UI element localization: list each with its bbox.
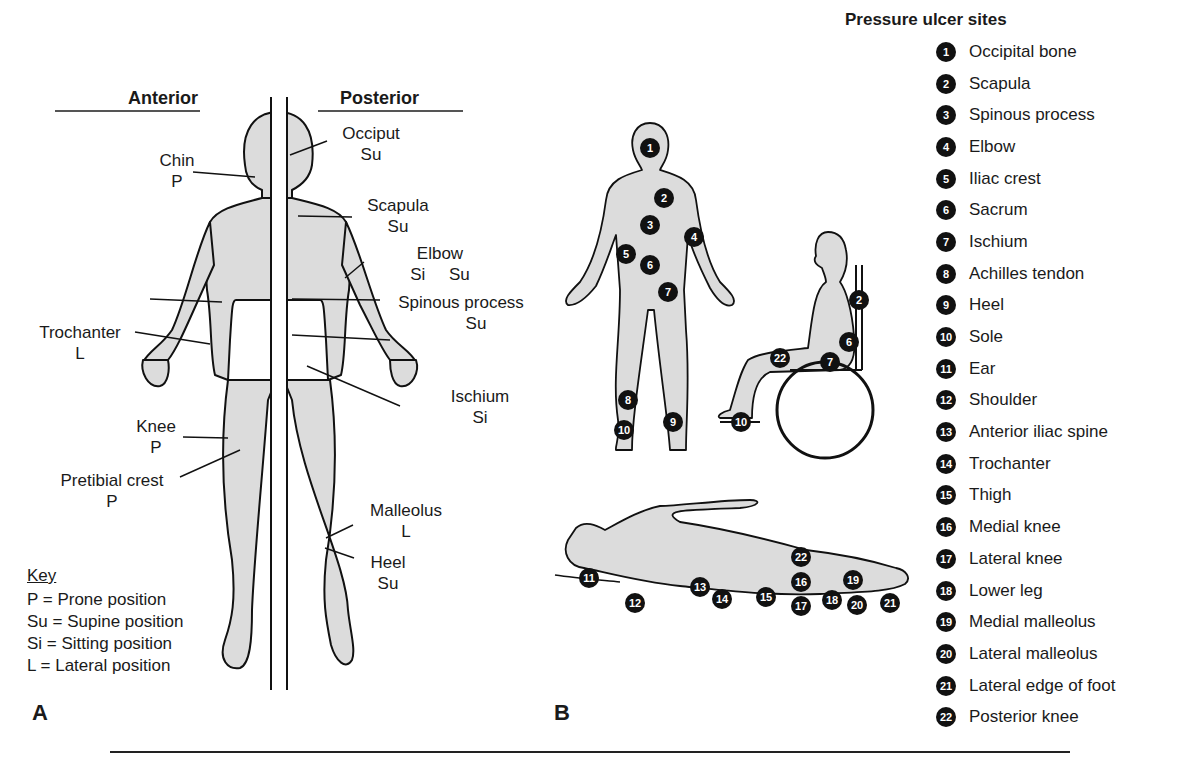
legend-item: 12Shoulder: [936, 385, 1116, 417]
marker-2: 2: [654, 188, 674, 208]
svg-text:20: 20: [851, 599, 863, 611]
pressure-site-figures: 1 2 3 4 5 6 7 8 10 9 2 6 7 22 10 11 12 1…: [540, 100, 920, 660]
svg-text:7: 7: [827, 356, 833, 368]
svg-text:11: 11: [583, 572, 595, 584]
number-badge-icon: 2: [936, 74, 956, 94]
marker-16: 16: [791, 572, 811, 592]
marker-7: 7: [658, 282, 678, 302]
number-badge-icon: 11: [936, 359, 956, 379]
marker-14: 14: [712, 589, 732, 609]
legend-item: 19Medial malleolus: [936, 606, 1116, 638]
svg-text:16: 16: [795, 576, 807, 588]
key-entry-lateral: L = Lateral position: [27, 655, 183, 677]
svg-text:21: 21: [884, 597, 896, 609]
legend-item: 15Thigh: [936, 480, 1116, 512]
number-badge-icon: 4: [936, 137, 956, 157]
number-badge-icon: 17: [936, 549, 956, 569]
legend-title: Pressure ulcer sites: [845, 10, 1116, 30]
svg-text:12: 12: [629, 597, 641, 609]
marker-6-sitting: 6: [839, 332, 859, 352]
legend-item: 22Posterior knee: [936, 701, 1116, 733]
legend-item: 7Ischium: [936, 226, 1116, 258]
number-badge-icon: 7: [936, 232, 956, 252]
key-entry-prone: P = Prone position: [27, 589, 183, 611]
legend-item: 5Iliac crest: [936, 163, 1116, 195]
number-badge-icon: 9: [936, 295, 956, 315]
svg-text:19: 19: [847, 574, 859, 586]
number-badge-icon: 18: [936, 581, 956, 601]
svg-text:13: 13: [694, 581, 706, 593]
marker-10: 10: [614, 420, 634, 440]
marker-10-sitting: 10: [731, 412, 751, 432]
svg-text:6: 6: [647, 259, 653, 271]
marker-20: 20: [847, 595, 867, 615]
marker-18: 18: [822, 590, 842, 610]
label-elbow: Elbow Si Su: [370, 243, 510, 285]
marker-4: 4: [684, 227, 704, 247]
legend-item: 14Trochanter: [936, 448, 1116, 480]
legend-item: 3Spinous process: [936, 99, 1116, 131]
legend-item: 2Scapula: [936, 68, 1116, 100]
marker-13: 13: [690, 577, 710, 597]
number-badge-icon: 3: [936, 105, 956, 125]
legend-item: 11Ear: [936, 353, 1116, 385]
svg-text:7: 7: [665, 286, 671, 298]
legend-item: 1Occipital bone: [936, 36, 1116, 68]
position-key: Key P = Prone position Su = Supine posit…: [27, 565, 183, 677]
number-badge-icon: 10: [936, 327, 956, 347]
panel-letter-a: A: [32, 700, 48, 726]
legend-item: 20Lateral malleolus: [936, 638, 1116, 670]
legend-item: 17Lateral knee: [936, 543, 1116, 575]
marker-21: 21: [880, 593, 900, 613]
label-knee: Knee P: [128, 416, 184, 458]
svg-text:8: 8: [625, 394, 631, 406]
svg-text:22: 22: [774, 352, 786, 364]
key-title: Key: [27, 565, 183, 587]
key-entry-supine: Su = Supine position: [27, 611, 183, 633]
marker-5: 5: [616, 244, 636, 264]
marker-3: 3: [640, 215, 660, 235]
marker-7-sitting: 7: [820, 352, 840, 372]
svg-text:3: 3: [647, 219, 653, 231]
legend-item: 21Lateral edge of foot: [936, 670, 1116, 702]
number-badge-icon: 16: [936, 517, 956, 537]
panel-letter-b: B: [554, 700, 570, 726]
marker-6: 6: [640, 255, 660, 275]
svg-text:2: 2: [856, 294, 862, 306]
label-scapula: Scapula Su: [355, 195, 441, 237]
key-entry-sitting: Si = Sitting position: [27, 633, 183, 655]
svg-text:10: 10: [618, 424, 630, 436]
label-ischium: Ischium Si: [430, 386, 530, 428]
legend-item: 6Sacrum: [936, 194, 1116, 226]
bottom-divider: [110, 751, 1070, 753]
number-badge-icon: 15: [936, 485, 956, 505]
svg-text:5: 5: [623, 248, 629, 260]
label-heel: Heel Su: [360, 552, 416, 594]
legend-item: 13Anterior iliac spine: [936, 416, 1116, 448]
svg-text:10: 10: [735, 416, 747, 428]
number-badge-icon: 5: [936, 169, 956, 189]
legend-item: 9Heel: [936, 290, 1116, 322]
svg-text:4: 4: [691, 231, 698, 243]
legend-item: 10Sole: [936, 321, 1116, 353]
number-badge-icon: 21: [936, 676, 956, 696]
svg-text:1: 1: [647, 142, 653, 154]
svg-text:18: 18: [826, 594, 838, 606]
number-badge-icon: 22: [936, 707, 956, 727]
svg-text:14: 14: [716, 593, 729, 605]
marker-22: 22: [791, 547, 811, 567]
pressure-ulcer-sites-legend: Pressure ulcer sites 1Occipital bone 2Sc…: [936, 10, 1116, 733]
marker-17: 17: [791, 596, 811, 616]
legend-item: 16Medial knee: [936, 511, 1116, 543]
svg-text:6: 6: [846, 336, 852, 348]
number-badge-icon: 1: [936, 42, 956, 62]
marker-8: 8: [618, 390, 638, 410]
svg-text:22: 22: [795, 551, 807, 563]
svg-text:2: 2: [661, 192, 667, 204]
marker-19: 19: [843, 570, 863, 590]
marker-22-sitting: 22: [770, 348, 790, 368]
number-badge-icon: 8: [936, 264, 956, 284]
marker-15: 15: [756, 587, 776, 607]
number-badge-icon: 19: [936, 612, 956, 632]
label-occiput: Occiput Su: [328, 123, 414, 165]
